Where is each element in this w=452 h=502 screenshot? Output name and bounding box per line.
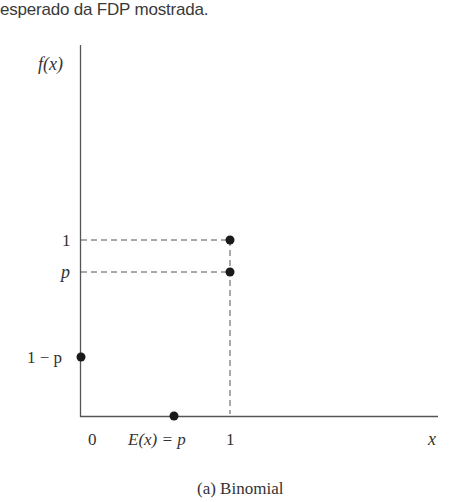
x-axis-label: x: [427, 429, 436, 449]
x-tick-1: 1: [226, 430, 235, 449]
binomial-pdf-chart: f(x) 1 p 1 − p 0 E(x) = p 1 x (a) Binomi…: [0, 0, 452, 502]
point-f1-1: [226, 236, 235, 245]
point-f1-p: [226, 268, 235, 277]
y-axis-label: f(x): [38, 54, 63, 75]
x-tick-0: 0: [88, 430, 97, 449]
point-expected-value: [170, 412, 179, 421]
y-tick-1: 1: [62, 231, 71, 250]
chart-caption: (a) Binomial: [197, 479, 284, 498]
y-tick-1-minus-p: 1 − p: [27, 348, 62, 367]
x-tick-expected: E(x) = p: [127, 430, 186, 449]
point-f0-1mp: [77, 353, 86, 362]
y-tick-p: p: [59, 262, 70, 282]
